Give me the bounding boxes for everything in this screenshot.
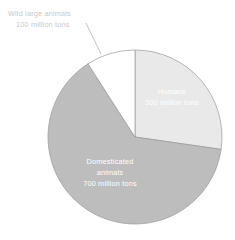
domesticated-animals-label-line-3: 700 million tons xyxy=(83,179,137,188)
domesticated-animals-label-line-2: animals xyxy=(97,168,124,177)
wild-large-animals-leader-line xyxy=(86,23,101,54)
humans-label-line-1: Humans xyxy=(158,87,186,96)
pie-chart-figure: Wild large animals 100 million tons Huma… xyxy=(0,0,235,240)
domesticated-animals-label-line-1: Domesticated xyxy=(87,157,134,166)
humans-label-line-2: 300 million tons xyxy=(145,98,199,107)
pie-chart-svg: Wild large animals 100 million tons Huma… xyxy=(0,0,235,240)
wild-large-animals-label-line-2: 100 million tons xyxy=(16,20,70,29)
wild-large-animals-label-line-1: Wild large animals xyxy=(8,9,71,18)
